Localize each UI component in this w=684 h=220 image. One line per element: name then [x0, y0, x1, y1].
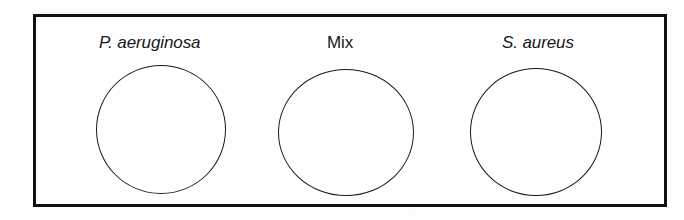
- circle-mix: [278, 69, 414, 196]
- circle-p-aeruginosa: [96, 65, 226, 194]
- panel-frame: P. aeruginosa Mix S. aureus: [33, 14, 667, 207]
- label-mix: Mix: [327, 33, 353, 53]
- circle-s-aureus: [470, 68, 602, 196]
- label-s-aureus: S. aureus: [502, 33, 574, 53]
- label-p-aeruginosa: P. aeruginosa: [99, 33, 200, 53]
- figure-root: P. aeruginosa Mix S. aureus: [0, 0, 684, 220]
